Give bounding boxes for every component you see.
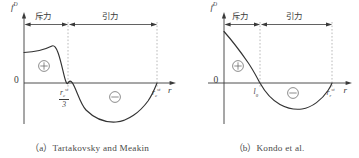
y-axis-label-b: fD	[211, 2, 218, 12]
positive-marker-b	[232, 61, 243, 72]
x-axis-label-a: r	[168, 86, 172, 95]
repulsive-region-label-a: 斥力	[35, 12, 51, 20]
tick-b-l0-sub: 0	[256, 93, 258, 98]
tick-b-cut-sup: st	[331, 87, 334, 92]
tick-b-cut-sub: r	[329, 93, 331, 98]
arrowhead-b-3	[260, 23, 266, 27]
force-curve-a	[24, 46, 157, 122]
figure-container: fD r 0 斥力 引力 rcst 3 rcst （a）Tartakovsky …	[0, 0, 359, 158]
plot-area-a: fD r 0 斥力 引力 rcst 3 rcst	[0, 0, 180, 132]
y-axis-label-b-sup: D	[213, 1, 217, 7]
positive-marker-a	[39, 61, 50, 72]
attractive-region-label-a: 引力	[102, 12, 118, 20]
y-axis-arrowhead-b	[221, 12, 225, 18]
caption-a-number: （a）	[30, 143, 52, 153]
guides-a	[68, 22, 157, 88]
chart-b-svg	[180, 0, 359, 132]
force-curve-b	[224, 32, 332, 110]
panel-a: fD r 0 斥力 引力 rcst 3 rcst （a）Tartakovsky …	[0, 0, 180, 158]
chart-a-svg	[0, 0, 180, 132]
origin-label-a: 0	[14, 76, 19, 86]
caption-b-text: Kondo et al.	[256, 143, 304, 153]
caption-a-text: Tartakovsky and Meakin	[52, 143, 149, 153]
caption-b-number: （b）	[234, 143, 257, 153]
y-axis-arrowhead-a	[22, 12, 26, 18]
x-tick-label-a-cutoff: rcst	[152, 88, 160, 99]
repulsive-region-label-b: 斥力	[232, 12, 248, 20]
plot-area-b: fD r 0 斥力 引力 l0 rrst	[180, 0, 359, 132]
tick-a-mid-sup: st	[65, 87, 68, 92]
tick-a-cut-sup: st	[157, 87, 160, 92]
attractive-region-label-b: 引力	[286, 12, 302, 20]
tick-a-cut-sub: c	[155, 93, 157, 98]
arrowhead-a-4	[151, 23, 157, 27]
axes-a	[22, 12, 176, 124]
x-tick-label-b-cutoff: rrst	[327, 88, 335, 99]
caption-b: （b）Kondo et al.	[180, 140, 359, 154]
tick-a-mid-sub: c	[63, 93, 65, 98]
axes-b	[208, 12, 352, 124]
arrowhead-a-1	[24, 23, 30, 27]
arrowhead-b-1	[224, 23, 230, 27]
x-tick-label-a-mid: rcst 3	[59, 88, 69, 109]
fraction-a: rcst 3	[59, 88, 69, 109]
origin-label-b: 0	[214, 76, 219, 86]
x-axis-label-b: r	[344, 86, 348, 95]
panel-b: fD r 0 斥力 引力 l0 rrst （b）Kondo et al.	[180, 0, 359, 158]
arrowhead-b-2	[254, 23, 260, 27]
negative-marker-b	[287, 88, 298, 99]
caption-a: （a）Tartakovsky and Meakin	[0, 140, 180, 154]
y-axis-label-a-sup: D	[14, 1, 18, 7]
fraction-numerator-a: rcst	[59, 88, 69, 100]
arrowhead-a-2	[62, 23, 68, 27]
arrowhead-a-3	[69, 23, 75, 27]
y-axis-label-a: fD	[11, 2, 18, 12]
negative-marker-a	[110, 92, 121, 103]
fraction-denominator-a: 3	[59, 100, 69, 108]
x-tick-label-b-l0: l0	[254, 88, 258, 98]
guides-b	[260, 22, 332, 88]
arrowhead-b-4	[326, 23, 332, 27]
